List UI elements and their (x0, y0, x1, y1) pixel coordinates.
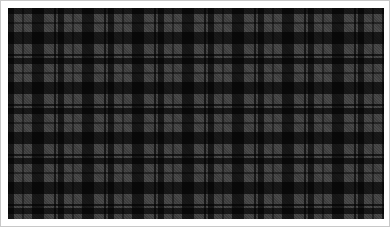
image-frame (0, 0, 390, 227)
tartan-fabric (8, 8, 384, 219)
twill-texture (8, 8, 384, 219)
